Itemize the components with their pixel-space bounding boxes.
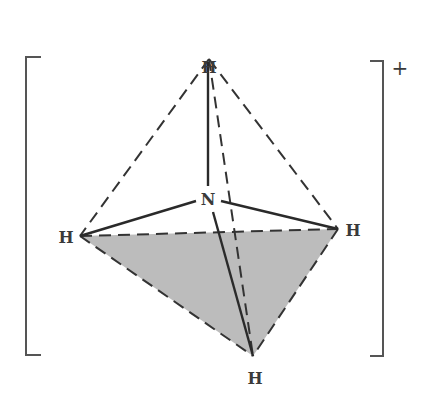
atom-label-h-top: H bbox=[201, 58, 216, 77]
atom-label-h-bottom: H bbox=[247, 369, 262, 388]
bond-n-left bbox=[80, 201, 196, 236]
atom-label-h-right: H bbox=[345, 221, 360, 240]
edge-top-left bbox=[80, 59, 209, 236]
atom-label-n: N bbox=[201, 190, 216, 209]
right-bracket bbox=[370, 61, 383, 356]
charge-plus: + bbox=[392, 56, 409, 80]
left-bracket bbox=[26, 57, 41, 355]
atom-label-h-left: H bbox=[58, 228, 73, 247]
ammonium-tetrahedron-diagram: N H H H H + bbox=[0, 0, 430, 406]
bond-n-right bbox=[221, 201, 338, 229]
shaded-base-face bbox=[80, 229, 338, 356]
